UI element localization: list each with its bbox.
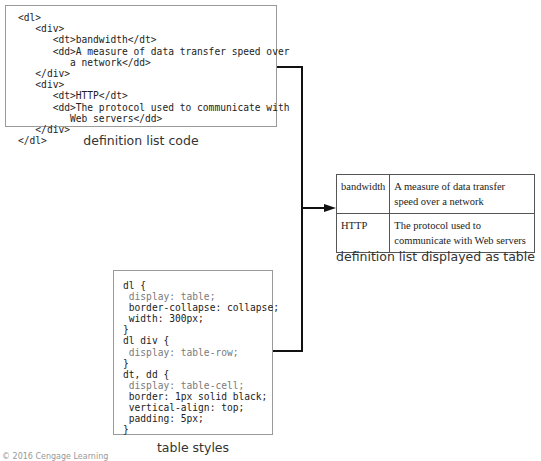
code-line: <dl> bbox=[18, 12, 41, 23]
css-line: } bbox=[123, 358, 129, 369]
definition-list-code-caption: definition list code bbox=[5, 133, 277, 148]
code-line: a network</dd> bbox=[18, 57, 151, 68]
connector-arrow-shaft bbox=[301, 207, 325, 209]
definition-list-code: <dl> <div> <dt>bandwidth</dt> <dd>A meas… bbox=[18, 12, 276, 146]
css-line: padding: 5px; bbox=[123, 413, 204, 424]
code-line: <div> bbox=[18, 79, 64, 90]
code-line: <dd>A measure of data transfer speed ove… bbox=[18, 46, 289, 57]
code-line: <dd>The protocol used to communicate wit… bbox=[18, 102, 289, 113]
definition-list-code-box: <dl> <div> <dt>bandwidth</dt> <dd>A meas… bbox=[5, 5, 277, 127]
code-line: </div> bbox=[18, 68, 70, 79]
copyright-credit: © 2016 Cengage Learning bbox=[2, 452, 108, 461]
table-styles-caption: table styles bbox=[113, 440, 273, 455]
css-line-highlighted: display: table; bbox=[123, 291, 215, 302]
css-line: border-collapse: collapse; bbox=[123, 302, 279, 313]
code-line: <dt>bandwidth</dt> bbox=[18, 34, 157, 45]
connector-bottom-horizontal bbox=[273, 350, 303, 352]
definition-list-table: bandwidth A measure of data transfer spe… bbox=[336, 174, 535, 253]
css-line-highlighted: display: table-cell; bbox=[123, 380, 244, 391]
arrow-right-icon bbox=[324, 204, 336, 212]
table-definition-cell: The protocol used to communicate with We… bbox=[390, 214, 535, 253]
table-definition-cell: A measure of data transfer speed over a … bbox=[390, 175, 535, 214]
table-styles-code: dl { display: table; border-collapse: co… bbox=[123, 280, 272, 435]
css-line: width: 300px; bbox=[123, 313, 204, 324]
definition-table-caption: definition list displayed as table bbox=[336, 249, 535, 264]
css-line: } bbox=[123, 324, 129, 335]
code-line: <div> bbox=[18, 23, 64, 34]
css-line: dt, dd { bbox=[123, 369, 169, 380]
table-row: HTTP The protocol used to communicate wi… bbox=[337, 214, 535, 253]
table-row: bandwidth A measure of data transfer spe… bbox=[337, 175, 535, 214]
css-line: dl div { bbox=[123, 335, 169, 346]
css-line: } bbox=[123, 424, 129, 435]
css-line: border: 1px solid black; bbox=[123, 391, 267, 402]
table-term-cell: HTTP bbox=[337, 214, 390, 253]
code-line: <dt>HTTP</dt> bbox=[18, 90, 128, 101]
code-line: Web servers</dd> bbox=[18, 113, 162, 124]
table-styles-box: dl { display: table; border-collapse: co… bbox=[113, 270, 273, 435]
css-line-highlighted: display: table-row; bbox=[123, 347, 239, 358]
table-term-cell: bandwidth bbox=[337, 175, 390, 214]
css-line: vertical-align: top; bbox=[123, 402, 244, 413]
connector-top-horizontal bbox=[277, 66, 303, 68]
css-line: dl { bbox=[123, 280, 146, 291]
connector-vertical bbox=[301, 66, 303, 352]
